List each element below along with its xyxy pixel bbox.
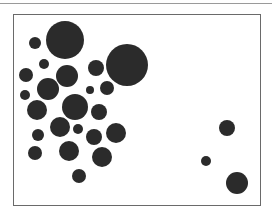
circle-shape [29,37,41,49]
circle-shape [46,21,84,59]
circle-shape [37,78,59,100]
circle-shape [92,147,112,167]
circle-shape [100,81,114,95]
circle-shape [88,60,104,76]
circle-shape [86,86,94,94]
circle-shape [106,123,126,143]
circle-shape [59,141,79,161]
circle-shape [28,146,42,160]
circle-shape [20,90,30,100]
circle-shape [27,100,47,120]
circle-shape [201,156,211,166]
circle-shape [56,65,78,87]
circle-shape [39,59,49,69]
circle-shape [32,129,44,141]
circle-shape [219,120,235,136]
circle-shape [106,44,148,86]
circle-shape [19,68,33,82]
circles-canvas [0,0,272,216]
circle-shape [226,172,248,194]
circle-shape [91,104,107,120]
circle-shape [50,117,70,137]
circle-shape [73,124,83,134]
circle-shape [62,94,88,120]
circle-shape [86,129,102,145]
circle-shape [72,169,86,183]
